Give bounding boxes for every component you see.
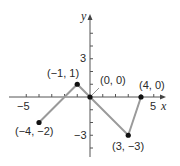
y-tick-label-neg3: −3 (74, 129, 87, 141)
data-point-4-0 (138, 94, 143, 99)
label-leader-line (92, 88, 99, 95)
x-axis-label: x (160, 99, 167, 113)
point-label-3-neg3: (3, −3) (112, 140, 144, 152)
x-tick-label-neg5: −5 (17, 100, 30, 112)
data-point-0-0 (87, 94, 92, 99)
chart: x y −5 5 3 −3 (−4, −2) (−1, 1) (0, 0) (3… (0, 0, 180, 166)
y-tick-label-3: 3 (80, 52, 86, 64)
data-point-neg1-1 (75, 82, 80, 87)
x-tick-label-5: 5 (150, 100, 156, 112)
y-axis-arrow-icon (88, 14, 93, 20)
point-label-4-0: (4, 0) (139, 79, 165, 91)
point-label-0-0: (0, 0) (100, 74, 126, 86)
point-label-neg1-1: (−1, 1) (47, 67, 79, 79)
data-point-3-neg3 (126, 133, 131, 138)
point-label-neg4-neg2: (−4, −2) (15, 125, 54, 137)
y-axis-label: y (80, 9, 87, 23)
